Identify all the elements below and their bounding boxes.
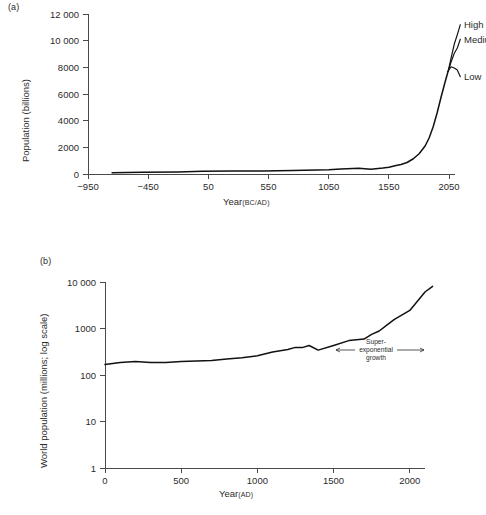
svg-text:12 000: 12 000 bbox=[50, 9, 79, 20]
svg-text:−450: −450 bbox=[137, 181, 158, 192]
panel-a-x-tick-labels: −950 −450 50 550 1050 1550 2050 bbox=[77, 181, 459, 192]
svg-text:2000: 2000 bbox=[399, 475, 420, 486]
svg-text:4000: 4000 bbox=[58, 115, 79, 126]
panel-b-x-ticks bbox=[105, 468, 410, 473]
svg-text:1000: 1000 bbox=[75, 323, 96, 334]
panel-b: (b) World population (millions; log scal… bbox=[0, 250, 486, 515]
svg-text:500: 500 bbox=[173, 475, 189, 486]
annotation-line-3: growth bbox=[366, 354, 386, 362]
svg-text:2000: 2000 bbox=[58, 142, 79, 153]
svg-text:1: 1 bbox=[91, 463, 96, 474]
svg-text:1000: 1000 bbox=[247, 475, 268, 486]
panel-a-curve-low bbox=[448, 67, 460, 77]
svg-text:1550: 1550 bbox=[378, 181, 399, 192]
panel-b-y-tick-labels: 10 000 1000 100 10 1 bbox=[67, 277, 96, 474]
panel-a: (a) Population (billions) Year(BC/AD) 12… bbox=[0, 0, 486, 225]
svg-text:1050: 1050 bbox=[318, 181, 339, 192]
panel-b-plot: 10 000 1000 100 10 1 0 500 1000 1500 200… bbox=[0, 250, 486, 515]
panel-b-y-ticks bbox=[100, 282, 105, 468]
svg-text:10 000: 10 000 bbox=[67, 277, 96, 288]
svg-text:1500: 1500 bbox=[323, 475, 344, 486]
panel-a-series-labels: High Medium Low bbox=[464, 19, 486, 82]
svg-text:2050: 2050 bbox=[439, 181, 460, 192]
svg-text:550: 550 bbox=[261, 181, 277, 192]
svg-text:50: 50 bbox=[203, 181, 214, 192]
panel-b-x-tick-labels: 0 500 1000 1500 2000 bbox=[102, 475, 420, 486]
panel-a-x-ticks bbox=[88, 174, 449, 179]
svg-text:0: 0 bbox=[102, 475, 107, 486]
svg-text:0: 0 bbox=[74, 169, 79, 180]
panel-a-y-tick-labels: 12 000 10 000 8000 6000 4000 2000 0 bbox=[50, 9, 79, 180]
series-label-medium: Medium bbox=[464, 34, 486, 45]
series-label-high: High bbox=[464, 19, 484, 30]
panel-a-y-ticks bbox=[83, 14, 88, 174]
panel-b-annotation-super-exponential: Super- exponential growth bbox=[336, 338, 424, 362]
svg-text:8000: 8000 bbox=[58, 62, 79, 73]
population-growth-figure: (a) Population (billions) Year(BC/AD) 12… bbox=[0, 0, 486, 515]
panel-a-plot: 12 000 10 000 8000 6000 4000 2000 0 −950 bbox=[0, 0, 486, 225]
svg-text:10: 10 bbox=[85, 416, 96, 427]
annotation-line-2: exponential bbox=[359, 346, 393, 354]
svg-text:6000: 6000 bbox=[58, 89, 79, 100]
panel-a-curve-historical bbox=[112, 71, 448, 172]
svg-text:10 000: 10 000 bbox=[50, 35, 79, 46]
svg-text:−950: −950 bbox=[77, 181, 98, 192]
annotation-line-1: Super- bbox=[366, 338, 386, 346]
series-label-low: Low bbox=[464, 71, 482, 82]
svg-text:100: 100 bbox=[80, 370, 96, 381]
